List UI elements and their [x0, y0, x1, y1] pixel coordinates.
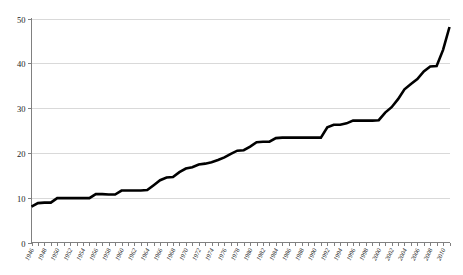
- y-tick-label: 50: [17, 15, 26, 25]
- y-tick-label: 10: [17, 194, 26, 204]
- chart-canvas: 01020304050 1946194819501952195419561958…: [0, 0, 463, 275]
- y-tick-label: 40: [17, 59, 26, 69]
- y-tick-label: 30: [17, 104, 26, 114]
- y-tick-label: 0: [21, 239, 25, 249]
- y-tick-label: 20: [17, 149, 26, 159]
- line-chart: 01020304050 1946194819501952195419561958…: [0, 0, 463, 275]
- chart-background: [0, 0, 463, 275]
